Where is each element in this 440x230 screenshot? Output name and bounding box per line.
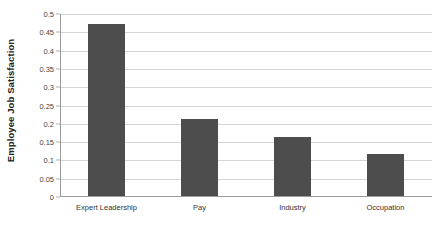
y-tick-label: 0.2 [44,119,54,128]
x-axis-tick-labels: Expert LeadershipPayIndustryOccupation [60,200,432,220]
y-axis-title-text: Employee Job Satisfaction [6,38,17,161]
y-tick-mark [56,178,60,179]
y-tick-label: 0.35 [39,64,54,73]
x-tick-label: Industry [279,203,306,212]
y-tick-mark [56,160,60,161]
x-tick-label: Occupation [367,203,405,212]
y-tick-mark [56,32,60,33]
y-tick-mark [56,87,60,88]
y-axis-title: Employee Job Satisfaction [0,0,22,200]
bar[interactable] [181,119,218,196]
y-tick-mark [56,14,60,15]
bars-layer [60,14,432,197]
y-tick-label: 0.25 [39,101,54,110]
y-tick-mark [56,50,60,51]
y-tick-label: 0 [50,193,54,202]
y-tick-label: 0.4 [44,46,54,55]
y-tick-label: 0.5 [44,10,54,19]
x-tick-label: Pay [193,203,206,212]
bar[interactable] [88,24,125,196]
y-tick-label: 0.05 [39,174,54,183]
y-axis-tick-labels: 00.050.10.150.20.250.30.350.40.450.5 [22,0,60,230]
y-tick-label: 0.15 [39,138,54,147]
y-tick-mark [56,105,60,106]
y-tick-label: 0.45 [39,28,54,37]
plot-area [60,14,432,197]
y-tick-mark [56,68,60,69]
y-tick-mark [56,197,60,198]
bar[interactable] [274,137,311,196]
y-tick-mark [56,123,60,124]
y-tick-label: 0.3 [44,83,54,92]
y-tick-label: 0.1 [44,156,54,165]
x-tick-label: Expert Leadership [76,203,137,212]
y-tick-mark [56,142,60,143]
bar[interactable] [367,154,404,196]
bar-chart: Employee Job Satisfaction 00.050.10.150.… [0,0,440,230]
